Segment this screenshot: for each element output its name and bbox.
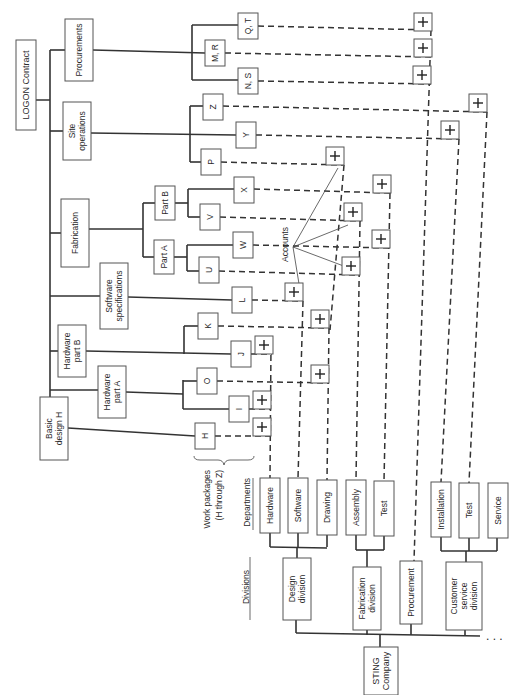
logon-contract-title: LOGON Contract: [16, 40, 36, 130]
department-service-7: Service: [488, 483, 508, 538]
department-installation-5: Installation: [431, 482, 451, 537]
sub-element-part-b: Part B: [155, 186, 175, 220]
contract-element-hardware-part-a-label: Hardware: [102, 373, 112, 410]
account-2: [413, 66, 431, 84]
department-assembly-3: Assembly: [346, 480, 366, 535]
department-test-6-label: Test: [464, 502, 474, 518]
account-12: [255, 336, 273, 354]
contract-element-site-operations-label: Site: [67, 123, 77, 138]
contract-element-basic-design-h-label: design H: [54, 412, 64, 446]
department-hardware-0-label: Hardware: [265, 487, 275, 524]
department-test-4: Test: [374, 481, 394, 536]
contract-element-software-specifications-label: Software: [104, 279, 114, 313]
contract-element-hardware-part-b: Hardwarepart B: [58, 325, 86, 377]
division-customer-service-division-label: division: [469, 582, 479, 611]
work-packages-label: Work packages: [202, 470, 212, 528]
division-design-division-label: Design: [287, 576, 297, 603]
work-package-mr-label: M, R: [210, 44, 220, 62]
work-package-mr: M, R: [205, 40, 225, 66]
work-package-w-label: W: [238, 241, 248, 249]
work-package-h-label: H: [200, 433, 210, 439]
contract-element-software-specifications: Softwarespecifications: [100, 263, 128, 329]
account-6: [373, 175, 391, 193]
contract-element-hardware-part-b-label: Hardware: [62, 332, 72, 369]
division-design-division-label: division: [297, 575, 307, 604]
department-test-6: Test: [459, 483, 479, 538]
work-package-z: Z: [203, 94, 223, 120]
sub-element-part-a-label: Part A: [159, 245, 169, 268]
continuation-ellipsis: . . .: [486, 629, 503, 643]
sting-company-box-label: Company: [381, 651, 391, 690]
division-customer-service-division-label: service: [459, 582, 469, 609]
work-package-u: U: [199, 257, 219, 283]
account-10: [285, 283, 303, 301]
division-procurement: Procurement: [400, 561, 422, 624]
division-procurement-label: Procurement: [406, 568, 416, 617]
contract-element-procurements-label: Procurements: [74, 24, 84, 77]
work-package-ns-label: N, S: [243, 72, 253, 89]
sting-company-box-label: STING: [371, 657, 381, 685]
account-1: [414, 39, 432, 57]
work-package-p: P: [201, 149, 221, 175]
department-assembly-3-label: Assembly: [351, 488, 361, 526]
work-package-v: V: [200, 204, 220, 230]
accounts-label: Accounts: [280, 227, 290, 262]
contract-element-hardware-part-a: Hardwarepart A: [98, 366, 126, 418]
division-fabrication-division-label: division: [367, 584, 377, 613]
contract-element-hardware-part-b-label: part B: [72, 339, 82, 362]
work-package-qt-label: Q, T: [243, 18, 253, 34]
logon-contract-org-matrix-diagram: LOGON ContractSTINGCompanyBasicdesign HH…: [0, 0, 521, 695]
contract-element-site-operations-label: operations: [77, 111, 87, 151]
account-7: [344, 203, 362, 221]
department-drawing-2-label: Drawing: [322, 492, 332, 523]
work-package-o-label: O: [202, 377, 212, 384]
work-package-l: L: [232, 287, 252, 313]
contract-element-fabrication-label: Fabrication: [70, 212, 80, 254]
contract-element-basic-design-h: Basicdesign H: [40, 397, 68, 460]
contract-element-fabrication: Fabrication: [61, 199, 89, 267]
work-package-v-label: V: [205, 214, 215, 220]
account-9: [342, 257, 360, 275]
work-package-l-label: L: [237, 297, 247, 302]
department-installation-5-label: Installation: [436, 489, 446, 530]
contract-element-software-specifications-label: specifications: [114, 270, 124, 321]
department-software-1-label: Software: [293, 488, 303, 522]
division-design-division: Designdivision: [283, 558, 311, 620]
work-package-x: X: [234, 177, 254, 203]
department-hardware-0: Hardware: [260, 478, 280, 533]
sting-company-box: STINGCompany: [364, 647, 398, 695]
departments-label: Departments: [242, 478, 252, 527]
division-customer-service-division: Customerservicedivision: [446, 562, 482, 630]
work-package-qt: Q, T: [238, 13, 258, 39]
account-8: [372, 230, 390, 248]
department-drawing-2: Drawing: [317, 480, 337, 535]
account-5: [326, 147, 344, 165]
work-package-w: W: [233, 232, 253, 258]
account-14: [253, 391, 271, 409]
division-fabrication-division: Fabricationdivision: [353, 567, 381, 630]
department-software-1: Software: [288, 478, 308, 533]
work-package-j: J: [231, 341, 251, 367]
work-package-j-label: J: [236, 352, 246, 356]
contract-element-site-operations: Siteoperations: [63, 102, 91, 160]
work-package-o: O: [197, 368, 217, 394]
logon-contract-title-label: LOGON Contract: [21, 50, 31, 120]
account-11: [311, 310, 329, 328]
contract-element-hardware-part-a-label: part A: [112, 381, 122, 404]
work-package-h: H: [195, 423, 215, 449]
work-package-x-label: X: [239, 187, 249, 193]
division-fabrication-division-label: Fabrication: [357, 577, 367, 619]
account-3: [469, 94, 487, 112]
division-customer-service-division-label: Customer: [449, 577, 459, 614]
account-15: [253, 418, 271, 436]
work-package-k: K: [198, 313, 218, 339]
contract-element-basic-design-h-label: Basic: [44, 417, 54, 439]
contract-element-procurements: Procurements: [65, 19, 93, 81]
work-package-z-label: Z: [208, 104, 218, 109]
sub-element-part-a: Part A: [154, 240, 174, 274]
work-package-y-label: Y: [241, 132, 251, 138]
sub-element-part-b-label: Part B: [160, 191, 170, 215]
divisions-label: Divisions: [241, 570, 251, 604]
account-4: [441, 121, 459, 139]
work-package-ns: N, S: [238, 68, 258, 94]
